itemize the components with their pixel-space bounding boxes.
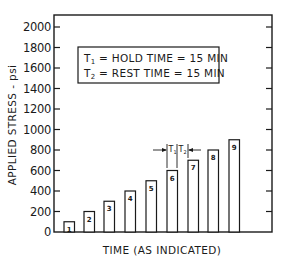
y-tick-label: 1800 — [23, 41, 51, 55]
bar-label: 8 — [211, 154, 216, 162]
bar-4: 4 — [125, 191, 136, 232]
bar-5: 5 — [146, 181, 157, 232]
bar-2: 2 — [84, 212, 95, 233]
bar-6: 6 — [167, 171, 178, 233]
y-tick-label: 1200 — [23, 102, 51, 116]
y-tick-label: 400 — [30, 184, 51, 198]
bar-7: 7 — [188, 160, 199, 232]
y-tick-label: 0 — [44, 225, 51, 239]
y-tick-label: 800 — [30, 143, 51, 157]
bar-label: 1 — [67, 226, 72, 234]
y-tick-label: 1400 — [23, 82, 51, 96]
stress-chart: 0200400600800100012001400160018002000 12… — [0, 0, 286, 265]
bar-label: 2 — [87, 216, 92, 224]
y-tick-label: 200 — [30, 205, 51, 219]
bars: 123456789 — [64, 140, 240, 234]
bar-8: 8 — [208, 150, 219, 232]
bar-label: 4 — [128, 195, 133, 203]
y-axis-title: APPLIED STRESS - psi — [6, 65, 18, 186]
y-tick-label: 2000 — [23, 20, 51, 34]
legend-line-t2: T2 = REST TIME = 15 MIN — [83, 67, 225, 81]
bar-label: 9 — [232, 144, 237, 152]
bar-1: 1 — [64, 222, 75, 234]
y-tick-label: 600 — [30, 164, 51, 178]
bar-label: 7 — [191, 164, 196, 172]
legend: T1 = HOLD TIME = 15 MIN T2 = REST TIME =… — [78, 47, 228, 83]
bar-9: 9 — [229, 140, 240, 232]
y-tick-label: 1600 — [23, 61, 51, 75]
annotation-t1: T1 — [168, 145, 177, 155]
bar-label: 3 — [107, 205, 112, 213]
legend-line-t1: T1 = HOLD TIME = 15 MIN — [83, 52, 228, 66]
x-axis-title: TIME (AS INDICATED) — [102, 244, 222, 256]
bar-3: 3 — [104, 201, 115, 232]
annotation-t2: T2 — [178, 145, 187, 155]
bar-label: 6 — [170, 175, 175, 183]
y-tick-label: 1000 — [23, 123, 51, 137]
bar-label: 5 — [149, 185, 154, 193]
